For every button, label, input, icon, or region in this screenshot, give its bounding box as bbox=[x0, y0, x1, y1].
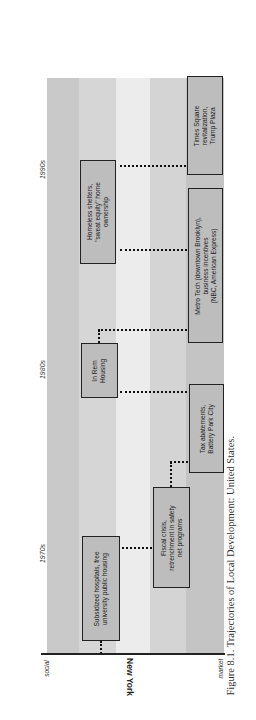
connector-homeless-to-metrotech bbox=[120, 249, 187, 251]
event-subsidized-hospitals: Subsidized hospitals, free university pu… bbox=[82, 536, 120, 641]
event-metro-tech: Metro Tech (downtown Brooklyn), business… bbox=[188, 188, 223, 343]
connector-fiscal-to-tax bbox=[170, 461, 188, 463]
axis-label-market: market bbox=[217, 657, 224, 681]
axis-label-social: social bbox=[43, 657, 50, 681]
city-label: New York bbox=[125, 657, 135, 697]
event-fiscal-crisis: Fiscal crisis, retrenchment in safety ne… bbox=[153, 487, 190, 588]
event-times-square: Times Square revitalization, Trump Plaza bbox=[187, 76, 223, 175]
event-text: Metro Tech (downtown Brooklyn), business… bbox=[194, 217, 218, 315]
event-in-rem-housing: In Rem Housing bbox=[81, 343, 118, 398]
event-text: In Rem Housing bbox=[91, 358, 107, 382]
connector-homeless-to-timessquare bbox=[120, 165, 186, 167]
decade-label-1990s: 1990s bbox=[39, 158, 46, 182]
figure-caption: Figure 8.1. Trajectories of Local Develo… bbox=[225, 396, 236, 696]
event-text: Subsidized hospitals, free university pu… bbox=[93, 551, 109, 626]
connector-axis-to-subsidized bbox=[100, 641, 102, 654]
connector-inrem-up bbox=[98, 330, 100, 343]
event-text: Homeless shelters, "sweat equity" home o… bbox=[86, 182, 110, 242]
decade-label-1980s: 1980s bbox=[39, 358, 46, 382]
band-social bbox=[47, 78, 79, 654]
connector-inrem-to-tax bbox=[120, 391, 187, 393]
axis-line bbox=[41, 653, 225, 655]
event-text: Fiscal crisis, retrenchment in safety ne… bbox=[160, 505, 184, 570]
event-text: Times Square revitalization, Trump Plaza bbox=[193, 105, 217, 146]
event-tax-abatements: Tax abatements, Battery Park City bbox=[189, 384, 224, 473]
connector-subsidized-to-fiscal bbox=[122, 547, 152, 549]
event-text: Tax abatements, Battery Park City bbox=[199, 404, 215, 453]
connector-inrem-to-metrotech bbox=[98, 329, 187, 331]
decade-label-1970s: 1970s bbox=[39, 542, 46, 566]
event-homeless-shelters: Homeless shelters, "sweat equity" home o… bbox=[80, 160, 116, 264]
connector-fiscal-up bbox=[170, 462, 172, 487]
